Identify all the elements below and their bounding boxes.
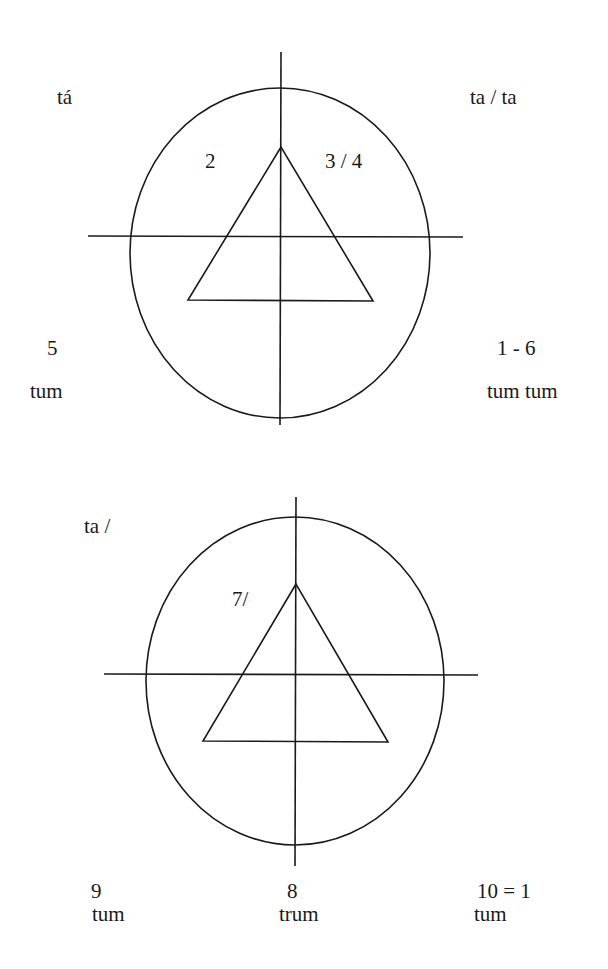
bottom-label-inner-left: 7/ (232, 587, 249, 611)
bottom-diagram: ta / 7/ 9 tum 8 trum 10 = 1 tum (84, 497, 531, 926)
top-vertical-axis (280, 52, 281, 425)
bottom-horizontal-axis (104, 674, 478, 675)
bottom-vertical-axis (295, 497, 296, 866)
bottom-label-bottom-left-number: 9 (91, 879, 102, 903)
rhythm-diagram-canvas: tá ta / ta 2 3 / 4 5 tum 1 - 6 tum tum t… (0, 0, 608, 969)
top-label-inner-right: 3 / 4 (325, 149, 363, 173)
top-label-bottom-right-word: tum tum (487, 379, 558, 403)
top-diagram: tá ta / ta 2 3 / 4 5 tum 1 - 6 tum tum (30, 52, 558, 425)
top-label-top-left: tá (57, 85, 73, 109)
top-label-bottom-left-word: tum (30, 379, 63, 403)
top-label-bottom-right-number: 1 - 6 (497, 336, 536, 360)
bottom-label-bottom-center-word: trum (279, 902, 319, 926)
top-label-inner-left: 2 (205, 149, 216, 173)
bottom-label-bottom-left-word: tum (92, 902, 125, 926)
bottom-label-bottom-center-number: 8 (287, 879, 298, 903)
bottom-label-bottom-right-number: 10 = 1 (477, 879, 531, 903)
bottom-label-bottom-right-word: tum (474, 902, 507, 926)
top-label-top-right: ta / ta (470, 85, 517, 109)
bottom-label-top-left: ta / (84, 514, 110, 538)
top-horizontal-axis (88, 236, 463, 237)
top-label-bottom-left-number: 5 (47, 336, 58, 360)
